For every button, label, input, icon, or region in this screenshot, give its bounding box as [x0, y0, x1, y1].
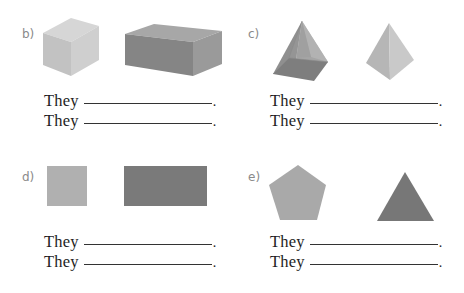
period: . — [439, 255, 443, 271]
answer-blank[interactable] — [310, 243, 438, 245]
sentence-prefix: They — [270, 232, 305, 252]
answer-blank[interactable] — [310, 263, 438, 265]
answer-line: They . — [270, 252, 442, 272]
period: . — [439, 235, 443, 251]
answer-line: They . — [270, 232, 442, 252]
sentence-prefix: They — [270, 252, 305, 272]
